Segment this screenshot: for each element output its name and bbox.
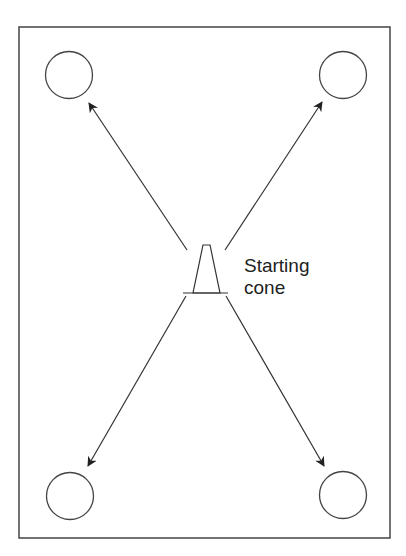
cone-icon <box>183 245 228 293</box>
label-line-1: Starting <box>244 255 309 277</box>
arrow-top-right <box>225 102 322 250</box>
field-boundary <box>19 27 390 538</box>
drill-diagram <box>0 0 406 556</box>
arrow-bottom-left <box>88 296 186 466</box>
marker-bottom-right <box>320 472 367 519</box>
starting-cone-label: Starting cone <box>244 255 309 299</box>
marker-top-right <box>320 52 367 99</box>
label-line-2: cone <box>244 277 309 299</box>
marker-bottom-left <box>47 473 94 520</box>
arrow-bottom-right <box>226 296 324 466</box>
marker-top-left <box>46 52 93 99</box>
arrow-top-left <box>89 103 187 250</box>
